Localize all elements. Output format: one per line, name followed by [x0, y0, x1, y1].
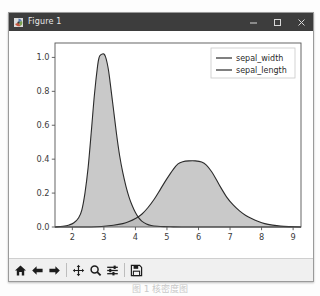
zoom-magnifier-icon[interactable] — [87, 261, 104, 279]
figure-canvas[interactable]: 234567890.00.20.40.60.81.0sepal_widthsep… — [9, 31, 313, 259]
svg-text:9: 9 — [291, 232, 296, 242]
svg-text:sepal_width: sepal_width — [236, 54, 283, 63]
svg-text:5: 5 — [164, 232, 169, 242]
configure-subplots-icon[interactable] — [104, 261, 121, 279]
screenshot-root: Figure 1 234567890.00 — [0, 0, 320, 296]
close-button[interactable] — [289, 13, 313, 31]
pan-move-icon[interactable] — [70, 261, 87, 279]
svg-text:0.2: 0.2 — [36, 188, 49, 198]
minimize-button[interactable] — [241, 13, 265, 31]
save-floppy-icon[interactable] — [128, 261, 145, 279]
toolbar-separator — [66, 263, 67, 277]
svg-text:1.0: 1.0 — [36, 52, 49, 62]
svg-text:4: 4 — [133, 232, 138, 242]
forward-arrow-icon[interactable] — [46, 261, 63, 279]
svg-text:0.4: 0.4 — [36, 154, 49, 164]
toolbar-separator — [124, 263, 125, 277]
window-controls — [241, 13, 313, 31]
window-titlebar[interactable]: Figure 1 — [9, 13, 313, 31]
maximize-button[interactable] — [265, 13, 289, 31]
svg-text:0.0: 0.0 — [36, 222, 49, 232]
svg-text:3: 3 — [101, 232, 106, 242]
figure-window: Figure 1 234567890.00 — [8, 12, 314, 282]
svg-text:8: 8 — [259, 232, 264, 242]
back-arrow-icon[interactable] — [29, 261, 46, 279]
density-plot: 234567890.00.20.40.60.81.0sepal_widthsep… — [9, 31, 311, 256]
figure-caption: 图 1 核密度图 — [0, 283, 320, 296]
matplotlib-icon — [14, 18, 23, 27]
window-title: Figure 1 — [28, 13, 62, 31]
svg-text:6: 6 — [196, 232, 201, 242]
svg-text:2: 2 — [70, 232, 75, 242]
svg-text:0.8: 0.8 — [36, 86, 49, 96]
svg-text:sepal_length: sepal_length — [236, 66, 287, 75]
svg-text:7: 7 — [227, 232, 232, 242]
home-icon[interactable] — [12, 261, 29, 279]
svg-text:0.6: 0.6 — [36, 120, 49, 130]
navigation-toolbar — [9, 259, 313, 281]
